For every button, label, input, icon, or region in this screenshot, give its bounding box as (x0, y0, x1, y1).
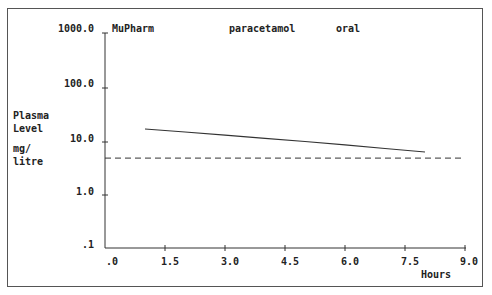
x-tick-label-1-5: 1.5 (161, 256, 179, 267)
y-tick-label-0-1: .1 (82, 239, 94, 250)
y-tick-label-1: 1.0 (76, 186, 94, 197)
x-tick-label-0: .0 (106, 256, 118, 267)
x-axis-label: Hours (421, 269, 451, 280)
header-route: oral (336, 23, 360, 34)
x-tick-label-4-5: 4.5 (281, 256, 299, 267)
y-axis-label-line1: Plasma (13, 110, 49, 121)
x-tick-label-3-0: 3.0 (221, 256, 239, 267)
plasma-concentration-line (145, 129, 425, 152)
y-axis-unit-line2: litre (13, 156, 43, 167)
y-tick-label-10: 10.0 (70, 133, 94, 144)
x-tick-label-7-5: 7.5 (401, 256, 419, 267)
y-tick-label-100: 100.0 (64, 78, 94, 89)
x-tick-label-6-0: 6.0 (341, 256, 359, 267)
y-tick-label-1000: 1000.0 (58, 23, 94, 34)
header-source: MuPharm (112, 23, 154, 34)
y-axis-unit-line1: mg/ (13, 143, 31, 154)
header-drug: paracetamol (229, 23, 295, 34)
y-axis-label-line2: Level (13, 123, 43, 134)
plasma-level-chart: MuPharm paracetamol oral Plasma Level mg… (0, 0, 492, 295)
x-tick-label-9-0: 9.0 (460, 256, 478, 267)
